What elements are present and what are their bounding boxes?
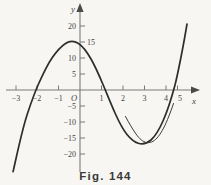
- y-tick-label--15: −15: [63, 134, 76, 143]
- cubic-function-plot: −3 −2 −1 1 2 3 4 5 20 15 10 5 −5 −10 −15…: [0, 0, 211, 185]
- y-tick-label--20: −20: [63, 150, 76, 159]
- y-axis-label: y: [70, 4, 75, 14]
- y-tick-label--5: −5: [67, 102, 76, 111]
- origin-label: O: [71, 93, 77, 103]
- y-tick-label-15: 15: [87, 38, 95, 47]
- x-axis-arrow-icon: [191, 86, 200, 93]
- y-tick-label--10: −10: [63, 118, 76, 127]
- x-tick-label-5: 5: [178, 94, 182, 103]
- y-tick-label-5: 5: [72, 70, 76, 79]
- x-tick-label-2: 2: [121, 94, 125, 103]
- x-tick-label-3: 3: [143, 94, 147, 103]
- x-tick-label--1: −1: [54, 94, 63, 103]
- x-axis-label: x: [191, 96, 196, 106]
- x-tick-label--3: −3: [12, 94, 21, 103]
- x-axis-ticks: [16, 86, 178, 91]
- figure-caption: Fig. 144: [0, 170, 211, 182]
- y-tick-label-10: 10: [68, 54, 76, 63]
- y-tick-label-20: 20: [68, 22, 76, 31]
- y-axis-arrow-icon: [76, 3, 83, 12]
- x-tick-label-1: 1: [100, 94, 104, 103]
- x-tick-label-4: 4: [164, 94, 168, 103]
- x-tick-label--2: −2: [33, 94, 42, 103]
- figure-container: −3 −2 −1 1 2 3 4 5 20 15 10 5 −5 −10 −15…: [0, 0, 211, 185]
- curve-secondary: [126, 104, 174, 143]
